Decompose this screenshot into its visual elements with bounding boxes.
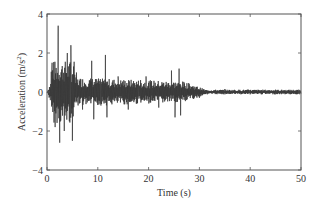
y-tick-label-2: 2 bbox=[38, 48, 43, 59]
x-tick-label-20: 20 bbox=[144, 173, 154, 184]
x-tick-label-10: 10 bbox=[93, 173, 103, 184]
x-tick-label-40: 40 bbox=[245, 173, 255, 184]
x-tick-label-0: 0 bbox=[45, 173, 50, 184]
x-axis-label: Time (s) bbox=[157, 187, 191, 199]
y-tick-label-neg4: −4 bbox=[32, 165, 43, 176]
x-tick-label-50: 50 bbox=[296, 173, 306, 184]
signal-line bbox=[47, 26, 301, 143]
y-tick-label-neg2: −2 bbox=[32, 126, 43, 137]
x-tick-label-30: 30 bbox=[194, 173, 204, 184]
y-axis-label: Acceleration (m/s2) bbox=[15, 53, 28, 131]
y-tick-label-4: 4 bbox=[38, 9, 43, 20]
y-tick-label-0: 0 bbox=[38, 87, 43, 98]
acceleration-chart: 0 10 20 30 40 50 4 2 0 −2 −4 Time (s) Ac… bbox=[0, 0, 321, 207]
